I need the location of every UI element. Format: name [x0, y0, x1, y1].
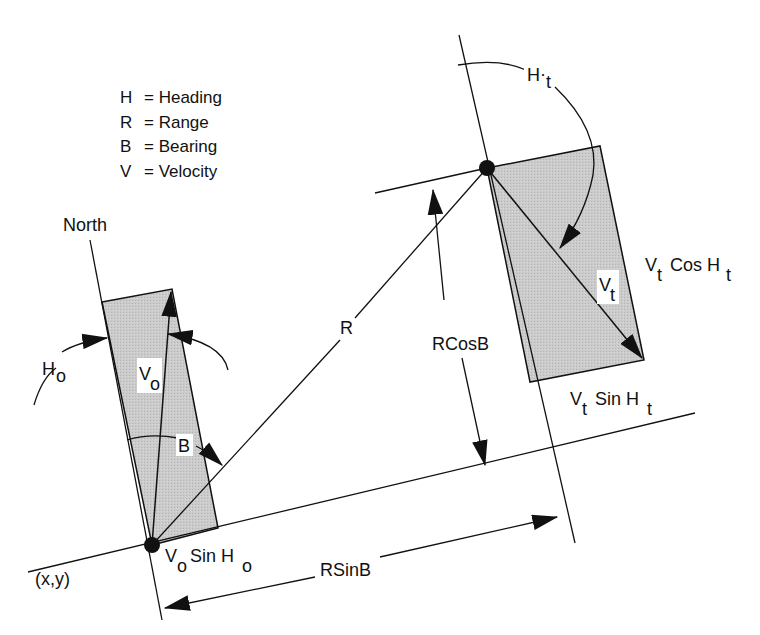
legend-meaning-h: = Heading	[144, 88, 222, 107]
svg-text:o: o	[177, 556, 187, 576]
vt-cos-ht-label: V t Cos H t	[645, 255, 731, 285]
svg-text:t: t	[647, 399, 652, 419]
svg-text:o: o	[150, 374, 160, 394]
ho-label: H o	[42, 359, 66, 386]
legend-symbol-h: H	[120, 88, 132, 107]
range-label: R	[340, 318, 353, 338]
legend-meaning-r: = Range	[144, 113, 209, 132]
rcosb-dimension-lower	[462, 358, 485, 465]
legend-meaning-b: = Bearing	[144, 137, 217, 156]
svg-text:H: H	[42, 359, 55, 379]
svg-text:o: o	[242, 556, 252, 576]
range-line-upper	[355, 168, 487, 318]
svg-text:o: o	[56, 366, 66, 386]
diagram-canvas: H = Heading R = Range B = Bearing V = Ve…	[0, 0, 760, 635]
legend-symbol-r: R	[120, 113, 132, 132]
legend-symbol-v: V	[120, 162, 132, 181]
svg-text:Sin H: Sin H	[595, 389, 639, 409]
observer-baseline	[28, 413, 695, 572]
rcosb-dimension-upper	[433, 190, 444, 300]
observer-velocity-box	[102, 289, 218, 545]
svg-text:H: H	[527, 65, 540, 85]
legend-symbol-b: B	[120, 137, 131, 156]
svg-text:V: V	[645, 255, 657, 275]
legend: H = Heading R = Range B = Bearing V = Ve…	[120, 88, 222, 181]
ht-heading-arc-left	[458, 62, 526, 70]
svg-text:t: t	[657, 265, 662, 285]
svg-text:t: t	[546, 72, 551, 92]
rsinb-dimension-left	[165, 577, 315, 608]
bearing-label: B	[178, 436, 190, 456]
vo-sin-ho-label: V o Sin H o	[165, 546, 252, 576]
svg-text:V: V	[570, 389, 582, 409]
rcosb-label: RCosB	[432, 334, 489, 354]
origin-coordinates-label: (x,y)	[35, 569, 70, 589]
target-position-dot	[479, 160, 495, 176]
observer-position-dot	[144, 537, 160, 553]
rsinb-dimension-right	[380, 517, 557, 557]
svg-text:t: t	[610, 285, 615, 305]
vt-sin-ht-label: V t Sin H t	[570, 389, 652, 419]
svg-text:Sin H: Sin H	[190, 546, 234, 566]
target-reference-line	[375, 168, 487, 193]
target-motion-diagram: H = Heading R = Range B = Bearing V = Ve…	[0, 0, 760, 635]
north-label: North	[63, 215, 107, 235]
svg-text:t: t	[582, 399, 587, 419]
svg-text:V: V	[165, 546, 177, 566]
rsinb-label: RSinB	[320, 560, 371, 580]
svg-text:Cos H: Cos H	[670, 255, 720, 275]
svg-text:t: t	[726, 265, 731, 285]
legend-meaning-v: = Velocity	[144, 162, 218, 181]
ho-heading-arc-upper	[62, 338, 107, 352]
